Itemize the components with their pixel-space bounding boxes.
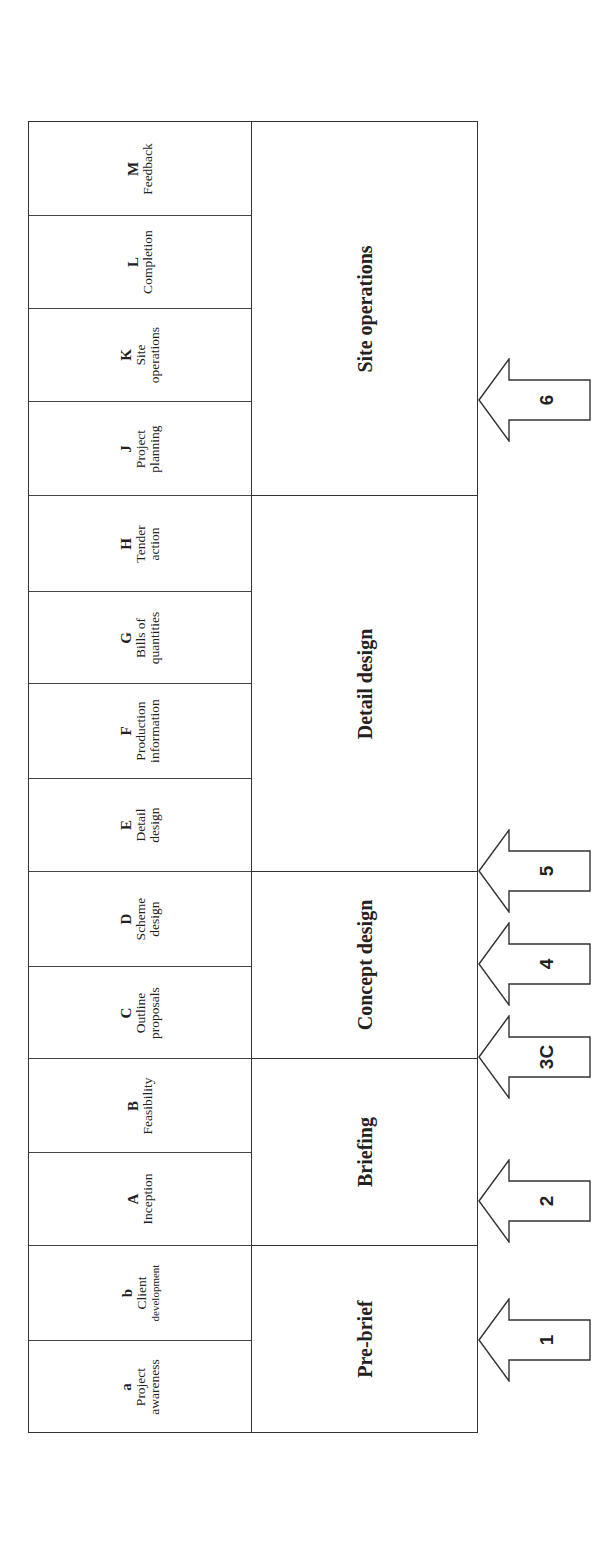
phase-label: Briefing: [353, 1117, 376, 1187]
stage-title: design: [148, 898, 162, 941]
stage-title: operations: [148, 327, 162, 383]
stage-title: Completion: [141, 230, 155, 294]
stage-code: K: [118, 327, 134, 383]
arrow-5: 5: [478, 829, 594, 913]
stage-code: E: [118, 807, 134, 842]
stage-grid: MFeedback LCompletion KSiteoperations JP…: [28, 121, 478, 1433]
stage-cell-M: MFeedback: [29, 122, 251, 216]
arrow-4: 4: [478, 922, 594, 1006]
stage-code: a: [118, 1359, 134, 1414]
stage-cell-F: FProductioninformation: [29, 684, 251, 779]
stage-title: Inception: [141, 1174, 155, 1225]
arrow-2: 2: [478, 1159, 594, 1243]
stage-cell-D: DSchemedesign: [29, 872, 251, 967]
arrow-label: 5: [536, 866, 558, 877]
phase-concept-design: Concept design: [252, 872, 477, 1059]
arrow-6: 6: [478, 358, 594, 442]
stage-code: A: [125, 1174, 141, 1225]
stage-title: Project: [134, 425, 148, 472]
phase-label: Detail design: [353, 628, 376, 739]
stage-title: Production: [134, 699, 148, 763]
phase-label: Concept design: [353, 900, 376, 1031]
stage-title: Scheme: [134, 898, 148, 941]
diagram-canvas: MFeedback LCompletion KSiteoperations JP…: [0, 0, 604, 1548]
stage-cell-a: aProjectawareness: [29, 1341, 251, 1432]
stage-title: action: [148, 525, 162, 562]
stage-title: Feedback: [141, 143, 155, 195]
phase-site-operations: Site operations: [252, 122, 477, 496]
phase-detail-design: Detail design: [252, 496, 477, 872]
stage-title: proposals: [148, 987, 162, 1039]
stage-code: C: [118, 987, 134, 1039]
stage-title: information: [148, 699, 162, 763]
stage-code: H: [118, 525, 134, 562]
stage-title: quantities: [148, 611, 162, 664]
stage-code: L: [125, 230, 141, 294]
stage-title: Client: [135, 1265, 149, 1322]
arrow-label: 2: [536, 1196, 558, 1207]
stage-title: awareness: [148, 1359, 162, 1414]
stage-cell-b: bClientdevelopment: [29, 1246, 251, 1341]
stage-cell-H: HTenderaction: [29, 496, 251, 592]
stage-code: B: [125, 1077, 141, 1134]
stage-code: D: [118, 898, 134, 941]
stage-cell-J: JProjectplanning: [29, 402, 251, 496]
arrow-label: 4: [536, 959, 558, 970]
stage-code: J: [118, 425, 134, 472]
phase-pre-brief: Pre-brief: [252, 1246, 477, 1432]
stage-title: Project: [134, 1359, 148, 1414]
stage-code: F: [118, 699, 134, 763]
stage-title: Outline: [134, 987, 148, 1039]
arrow-label: 3C: [536, 1045, 558, 1069]
stage-title: Feasibility: [141, 1077, 155, 1134]
stage-cell-E: EDetaildesign: [29, 779, 251, 872]
stage-cell-K: KSiteoperations: [29, 309, 251, 402]
stage-title: development: [149, 1265, 161, 1322]
stage-code: G: [118, 611, 134, 664]
arrow-3c: 3C: [478, 1015, 594, 1099]
phase-briefing: Briefing: [252, 1059, 477, 1246]
stage-cell-G: GBills ofquantities: [29, 592, 251, 684]
stage-title: planning: [148, 425, 162, 472]
phase-label: Pre-brief: [353, 1300, 376, 1377]
stage-cell-L: LCompletion: [29, 216, 251, 309]
stage-cell-C: COutlineproposals: [29, 967, 251, 1059]
stage-title: Tender: [134, 525, 148, 562]
arrow-1: 1: [478, 1298, 594, 1382]
stage-title: Site: [134, 327, 148, 383]
arrow-label: 6: [536, 395, 558, 406]
phase-label: Site operations: [353, 245, 376, 372]
stage-title: design: [148, 807, 162, 842]
arrow-label: 1: [536, 1335, 558, 1346]
stage-code: M: [125, 143, 141, 195]
stage-title: Bills of: [134, 611, 148, 664]
stage-code: b: [119, 1265, 135, 1322]
stage-title: Detail: [134, 807, 148, 842]
stage-cell-A: AInception: [29, 1153, 251, 1246]
stage-cell-B: BFeasibility: [29, 1059, 251, 1153]
